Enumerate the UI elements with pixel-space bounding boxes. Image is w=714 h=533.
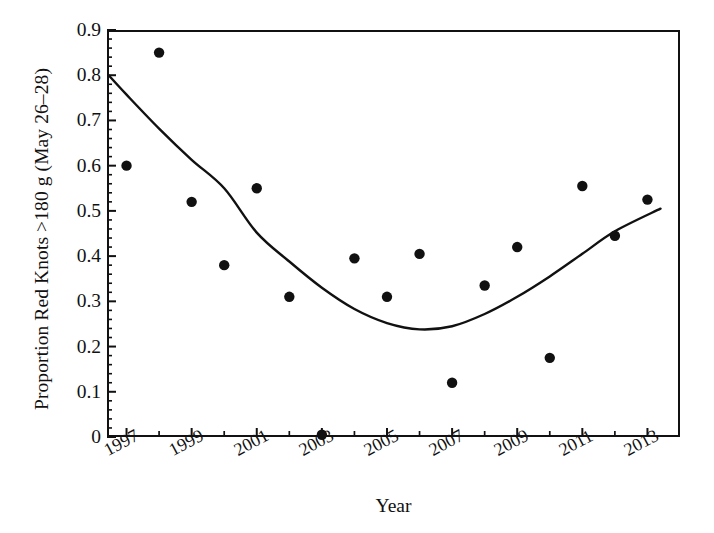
data-point <box>512 242 522 252</box>
y-axis-tick-labels: 00.10.20.30.40.50.60.70.80.9 <box>45 30 101 437</box>
data-point <box>121 160 131 170</box>
y-tick-label: 0.7 <box>55 111 101 131</box>
data-point <box>479 280 489 290</box>
y-major-ticks <box>107 30 116 437</box>
data-point <box>642 194 652 204</box>
data-point <box>154 47 164 57</box>
data-point <box>545 353 555 363</box>
data-point <box>382 292 392 302</box>
data-point <box>219 260 229 270</box>
x-axis-tick-labels: 199719992001200320052007200920112013 <box>107 437 680 497</box>
data-points <box>121 47 652 440</box>
y-minor-ticks <box>107 39 112 428</box>
data-point <box>447 378 457 388</box>
y-tick-label: 0.6 <box>55 156 101 176</box>
data-point <box>284 292 294 302</box>
data-point <box>252 183 262 193</box>
data-point <box>414 249 424 259</box>
data-point <box>577 181 587 191</box>
figure-scatter-red-knots: Proportion Red Knots >180 g (May 26–28) … <box>0 0 714 533</box>
plot-area <box>107 30 680 437</box>
y-tick-label: 0.4 <box>55 246 101 266</box>
y-tick-label: 0.3 <box>55 292 101 312</box>
y-tick-label: 0.1 <box>55 382 101 402</box>
plot-canvas <box>107 30 680 437</box>
x-axis-title: Year <box>107 495 680 517</box>
data-point <box>610 231 620 241</box>
y-tick-label: 0.5 <box>55 201 101 221</box>
y-tick-label: 0.2 <box>55 337 101 357</box>
data-point <box>186 197 196 207</box>
y-tick-label: 0.8 <box>55 65 101 85</box>
y-tick-label: 0.9 <box>55 20 101 40</box>
y-tick-label: 0 <box>55 427 101 447</box>
data-point <box>349 253 359 263</box>
